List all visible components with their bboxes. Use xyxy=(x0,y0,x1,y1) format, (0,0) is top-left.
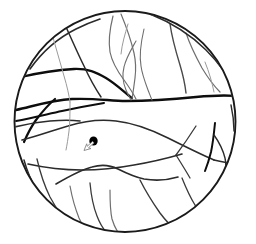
figure-container xyxy=(0,0,256,244)
line-network-svg xyxy=(0,0,256,244)
